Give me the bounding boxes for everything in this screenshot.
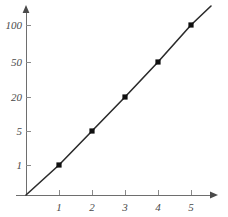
x-axis: 1 2 3 4 5 [16, 190, 218, 213]
data-point-4-50 [155, 59, 160, 64]
x-tick-label-2: 2 [89, 201, 95, 213]
data-series [26, 6, 211, 195]
x-tick-label-3: 3 [121, 201, 128, 213]
x-axis-arrow-icon [210, 192, 218, 199]
y-axis: 1 5 20 50 100 [6, 5, 32, 195]
y-tick-label-20: 20 [11, 91, 23, 103]
y-tick-label-5: 5 [17, 125, 23, 137]
series-line [26, 6, 211, 195]
data-point-2-5 [89, 128, 94, 133]
log-scale-line-chart: 1 5 20 50 100 1 2 3 4 5 [0, 0, 228, 217]
data-point-5-100 [188, 22, 193, 27]
x-tick-label-1: 1 [56, 201, 62, 213]
y-tick-label-1: 1 [17, 159, 23, 171]
y-axis-arrow-icon [23, 5, 30, 13]
y-tick-label-100: 100 [6, 19, 23, 31]
x-tick-label-4: 4 [155, 201, 161, 213]
chart-container: 1 5 20 50 100 1 2 3 4 5 [0, 0, 228, 217]
data-point-1-1 [56, 162, 61, 167]
data-point-3-20 [122, 94, 127, 99]
y-tick-label-50: 50 [11, 56, 23, 68]
x-tick-label-5: 5 [188, 201, 194, 213]
